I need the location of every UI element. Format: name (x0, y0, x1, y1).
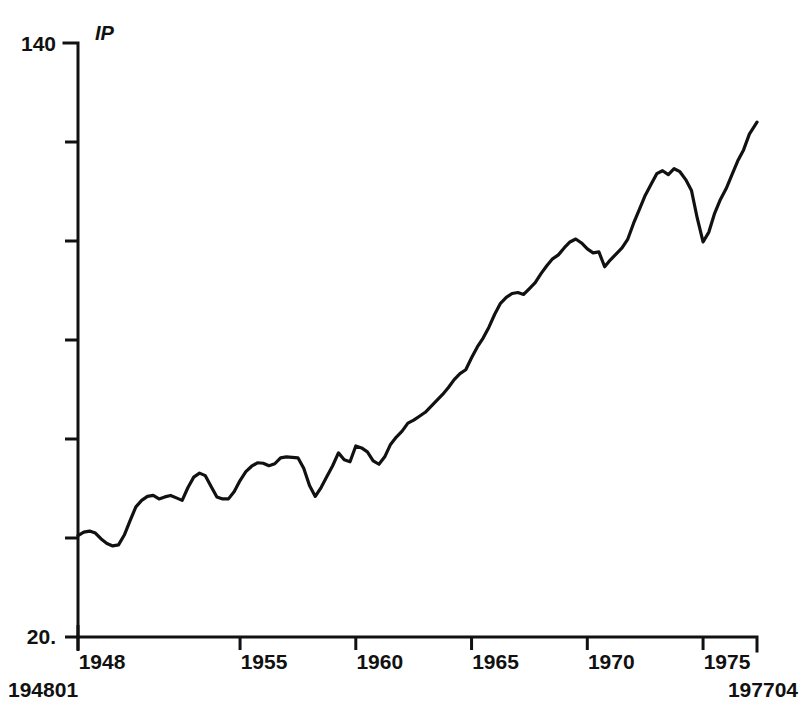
chart-labels: 19481955196019651970197514020.IP19480119… (8, 22, 798, 701)
x-axis-tick-label: 1970 (588, 650, 635, 673)
chart-figure: 19481955196019651970197514020.IP19480119… (0, 0, 806, 721)
line-chart: 19481955196019651970197514020.IP19480119… (0, 0, 806, 721)
range-end-label: 197704 (728, 678, 798, 701)
x-axis-tick-label: 1955 (241, 650, 288, 673)
x-axis-line (78, 637, 757, 651)
x-axis-tick-label: 1960 (356, 650, 403, 673)
series-name-label: IP (95, 22, 115, 44)
y-axis-tick-label-min: 20. (27, 625, 56, 648)
series-line-ip (78, 122, 757, 546)
chart-ticks (65, 142, 703, 651)
x-axis-tick-label: 1965 (472, 650, 519, 673)
x-axis-tick-label: 1975 (704, 650, 751, 673)
chart-axes (64, 43, 757, 651)
y-axis-tick-label-max: 140 (21, 32, 56, 55)
range-start-label: 194801 (8, 678, 78, 701)
x-axis-tick-label: 1948 (79, 650, 126, 673)
chart-series (78, 122, 757, 546)
